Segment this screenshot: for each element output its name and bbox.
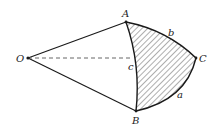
- label-arc-b: b: [168, 27, 174, 38]
- point-c: [195, 57, 198, 60]
- segment-ob: [28, 58, 136, 111]
- point-a: [125, 21, 128, 24]
- label-arc-a: a: [177, 89, 183, 100]
- label-o: O: [16, 53, 24, 64]
- label-arc-c: c: [128, 61, 134, 72]
- label-b-point: B: [131, 115, 139, 126]
- diagram-canvas: O A B C b a c: [0, 0, 220, 129]
- point-o: [26, 56, 29, 59]
- spherical-triangle-figure: O A B C b a c: [0, 0, 220, 129]
- label-a: A: [121, 8, 129, 19]
- label-c-point: C: [199, 53, 207, 64]
- segment-oa: [28, 22, 126, 58]
- point-b: [135, 110, 138, 113]
